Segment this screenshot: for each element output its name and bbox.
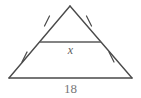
tick-mark-upper-left <box>45 16 50 26</box>
midsegment-length-label: x <box>0 44 141 56</box>
base-length-label: 18 <box>0 82 141 95</box>
tick-mark-upper-right <box>87 16 92 26</box>
geometry-figure: x 18 <box>0 0 141 98</box>
